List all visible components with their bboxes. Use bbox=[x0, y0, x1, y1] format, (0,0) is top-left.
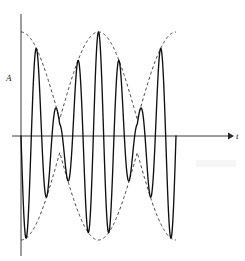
carrier-group bbox=[21, 32, 176, 238]
wave-plot: A t bbox=[0, 0, 245, 261]
wave-figure: A t bbox=[0, 0, 245, 261]
envelope-lower-curve bbox=[21, 153, 176, 240]
amplitude-axis-label: A bbox=[5, 73, 12, 83]
envelope-upper-curve bbox=[21, 32, 176, 119]
time-axis-label: t bbox=[236, 131, 239, 141]
carrier-wave-curve bbox=[21, 32, 176, 238]
right-arrow-icon bbox=[228, 133, 234, 140]
axes-group bbox=[12, 14, 234, 256]
